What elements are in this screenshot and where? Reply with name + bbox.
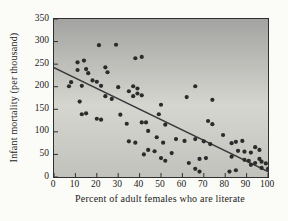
y-tick-label: 50 [15, 148, 49, 159]
data-point [193, 137, 197, 141]
data-point [95, 80, 99, 84]
data-point [221, 133, 225, 137]
data-point [210, 122, 214, 126]
x-tick-label: 10 [62, 179, 86, 190]
plot-area [53, 18, 269, 178]
data-point [227, 169, 231, 173]
data-point [105, 70, 109, 74]
data-point [135, 86, 139, 90]
data-point [86, 71, 90, 75]
data-point [257, 148, 261, 152]
data-point [140, 55, 144, 59]
data-point [84, 111, 88, 115]
data-point [208, 142, 212, 146]
data-point [193, 84, 197, 88]
data-point [193, 167, 197, 171]
data-point [152, 149, 156, 153]
x-tick-label: 0 [41, 179, 65, 190]
data-point [75, 68, 79, 72]
data-point [144, 120, 148, 124]
data-point [103, 65, 107, 69]
data-point [247, 159, 251, 163]
data-point [127, 89, 131, 93]
y-tick-label: 250 [15, 58, 49, 69]
scatter-svg [54, 19, 268, 177]
y-tick-label: 350 [15, 13, 49, 24]
data-point [127, 139, 131, 143]
data-point [236, 149, 240, 153]
x-tick-label: 40 [127, 179, 151, 190]
data-point [210, 98, 214, 102]
y-tick-label: 200 [15, 80, 49, 91]
data-point [249, 151, 253, 155]
x-tick-label: 100 [255, 179, 279, 190]
data-point [80, 112, 84, 116]
data-point [206, 119, 210, 123]
data-point [161, 141, 165, 145]
x-tick-label: 20 [84, 179, 108, 190]
x-tick-label: 90 [234, 179, 258, 190]
data-point [204, 156, 208, 160]
data-point [90, 78, 94, 82]
data-point [230, 155, 234, 159]
data-point [114, 43, 118, 47]
data-point [103, 94, 107, 98]
data-point [146, 129, 150, 133]
data-point [140, 120, 144, 124]
y-tick-label: 300 [15, 35, 49, 46]
x-tick-label: 50 [148, 179, 172, 190]
x-tick-label: 60 [169, 179, 193, 190]
data-point [202, 139, 206, 143]
data-point [99, 84, 103, 88]
data-point [159, 156, 163, 160]
data-point [197, 157, 201, 161]
data-point [182, 139, 186, 143]
x-tick-label: 70 [191, 179, 215, 190]
data-point [125, 122, 129, 126]
data-point [95, 117, 99, 121]
y-tick-label: 150 [15, 103, 49, 114]
data-point [197, 169, 201, 173]
x-axis-label: Percent of adult females who are literat… [45, 193, 275, 204]
data-point [146, 148, 150, 152]
data-point [97, 43, 101, 47]
data-point [242, 150, 246, 154]
data-point [163, 123, 167, 127]
data-point [157, 112, 161, 116]
scatter-figure: Infant mortality (per thousand) 05010015… [0, 0, 288, 221]
data-point [99, 118, 103, 122]
data-point [187, 161, 191, 165]
data-point [242, 158, 246, 162]
data-point [118, 113, 122, 117]
data-point [135, 91, 139, 95]
x-tick-label: 30 [105, 179, 129, 190]
x-tick-label: 80 [212, 179, 236, 190]
data-point [84, 67, 88, 71]
y-tick-label: 100 [15, 125, 49, 136]
data-point [82, 58, 86, 62]
data-point [174, 137, 178, 141]
data-point [259, 160, 263, 164]
data-point [234, 140, 238, 144]
data-point [264, 161, 268, 165]
data-point [259, 166, 263, 170]
data-point [249, 163, 253, 167]
data-point [67, 84, 71, 88]
data-point [163, 159, 167, 163]
data-point [142, 152, 146, 156]
data-point [78, 100, 82, 104]
data-point [69, 80, 73, 84]
data-point [253, 145, 257, 149]
data-point [116, 85, 120, 89]
data-point [185, 95, 189, 99]
data-point [133, 141, 137, 145]
data-point [131, 84, 135, 88]
data-point [80, 84, 84, 88]
data-point [131, 94, 135, 98]
data-point [240, 139, 244, 143]
data-point [155, 135, 159, 139]
data-point [159, 103, 163, 107]
data-point [75, 60, 79, 64]
data-point [253, 161, 257, 165]
data-point [234, 168, 238, 172]
